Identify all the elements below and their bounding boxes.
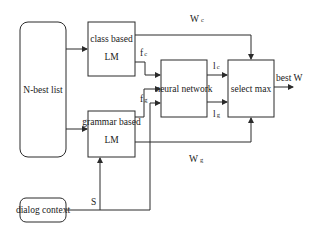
edge-wg xyxy=(135,118,251,142)
neural-network-label: neural network xyxy=(155,84,212,94)
grammar-lm-label-2: LM xyxy=(104,135,119,145)
neural-network-node: neural network xyxy=(155,60,212,117)
nbest-list-node: N-best list xyxy=(20,22,66,157)
class-lm-label-1: class based xyxy=(90,34,133,44)
wg-label: Wg xyxy=(189,154,204,164)
fc-label: fc xyxy=(140,48,147,58)
class-lm-node: class based LM xyxy=(88,22,135,76)
lc-label: lc xyxy=(213,61,220,71)
grammar-lm-label-1: grammar based xyxy=(82,117,141,127)
diagram-canvas: N-best list class based LM grammar based… xyxy=(0,0,309,235)
dialog-context-node: dialog context xyxy=(16,198,70,222)
fg-label: fg xyxy=(140,94,148,104)
dialog-context-label: dialog context xyxy=(16,205,70,215)
class-lm-label-2: LM xyxy=(104,52,119,62)
edge-fc xyxy=(135,62,160,75)
best-w-label: best W xyxy=(276,73,303,83)
select-max-node: select max xyxy=(228,60,274,117)
grammar-lm-node: grammar based LM xyxy=(82,111,141,157)
wc-label: Wc xyxy=(190,14,204,24)
select-max-label: select max xyxy=(231,84,272,94)
nbest-list-label: N-best list xyxy=(23,85,63,95)
s-label: S xyxy=(91,197,96,207)
edge-wc xyxy=(135,35,251,59)
lg-label: lg xyxy=(213,109,221,119)
